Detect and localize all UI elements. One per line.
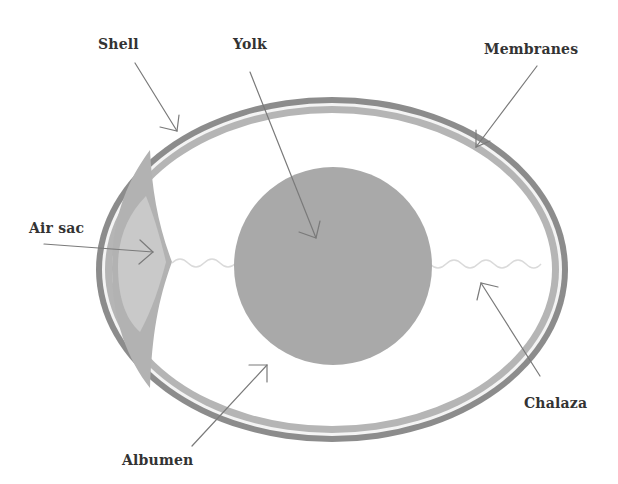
egg-illustration — [0, 0, 618, 484]
label-membranes: Membranes — [484, 42, 578, 56]
label-shell: Shell — [98, 37, 139, 51]
label-chalaza: Chalaza — [524, 396, 587, 410]
label-air-sac: Air sac — [29, 221, 84, 235]
label-yolk: Yolk — [233, 37, 267, 51]
shell-pointer-arrow — [135, 63, 179, 131]
membranes-pointer-arrow — [476, 66, 537, 147]
yolk — [234, 167, 432, 365]
egg-diagram: Shell Yolk Membranes Air sac Chalaza Alb… — [0, 0, 618, 484]
label-albumen: Albumen — [122, 453, 193, 467]
